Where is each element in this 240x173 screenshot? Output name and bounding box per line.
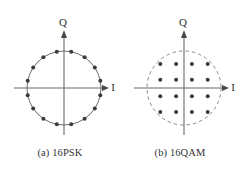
constellation-point [55,122,59,126]
constellation-point [55,50,59,54]
q-axis-label: Q [59,16,67,28]
i-axis-label: I [111,81,115,93]
constellation-point [158,62,162,66]
i-axis-arrow-icon [102,85,109,91]
constellation-point [174,78,178,82]
constellation-point [190,62,194,66]
constellation-point [69,122,73,126]
panel-16qam: Q I (b) 16QAM [120,0,240,173]
q-axis-label: Q [179,16,187,28]
q-axis-arrow-icon [181,30,187,38]
i-axis-label: I [231,81,235,93]
constellation-point [190,78,194,82]
constellation-point [174,94,178,98]
constellation-point [174,62,178,66]
constellation-point [69,50,73,54]
constellation-point [98,79,102,83]
q-axis-arrow-icon [61,30,67,38]
constellation-point [31,107,35,111]
constellation-point [206,110,210,114]
constellation-point [93,107,97,111]
constellation-point [190,94,194,98]
constellation-point [41,55,45,59]
caption-16psk: (a) 16PSK [0,146,120,159]
i-axis-arrow-icon [222,85,229,91]
constellation-point [41,117,45,121]
constellation-point [190,110,194,114]
constellation-point [158,78,162,82]
constellation-point [83,55,87,59]
plot-16qam: Q I [120,0,240,148]
constellation-point [174,110,178,114]
axes-16qam [134,30,229,135]
plot-16psk: Q I [0,0,120,148]
caption-16qam: (b) 16QAM [120,146,240,159]
panel-16psk: Q I (a) 16PSK [0,0,120,173]
constellation-point [206,78,210,82]
constellation-point [26,79,30,83]
constellation-point [26,93,30,97]
constellation-point [31,65,35,69]
constellation-figure: Q I (a) 16PSK [0,0,240,173]
constellation-point [93,65,97,69]
constellation-point [158,94,162,98]
constellation-point [83,117,87,121]
constellation-point [206,62,210,66]
constellation-point [98,93,102,97]
constellation-point [158,110,162,114]
constellation-point [206,94,210,98]
